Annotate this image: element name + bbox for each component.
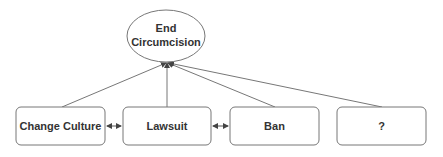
node-label: ? bbox=[378, 120, 385, 132]
node-change-culture: Change Culture bbox=[16, 107, 105, 145]
goal-label-line-1: End bbox=[156, 22, 177, 34]
node-label: Change Culture bbox=[20, 120, 102, 132]
goal-label-line-2: Circumcision bbox=[131, 36, 201, 48]
edge-unknown-to-goal bbox=[169, 63, 382, 107]
node-label: Ban bbox=[264, 120, 285, 132]
edge-change-culture-to-goal bbox=[62, 63, 166, 107]
goal-node-end-circumcision: End Circumcision bbox=[127, 10, 205, 62]
edge-ban-to-goal bbox=[168, 63, 275, 107]
node-label: Lawsuit bbox=[147, 120, 188, 132]
node-ban: Ban bbox=[230, 107, 319, 145]
node-lawsuit: Lawsuit bbox=[123, 107, 211, 145]
node-unknown: ? bbox=[337, 107, 426, 145]
diagram-canvas: End Circumcision Change Culture Lawsuit … bbox=[0, 0, 443, 157]
